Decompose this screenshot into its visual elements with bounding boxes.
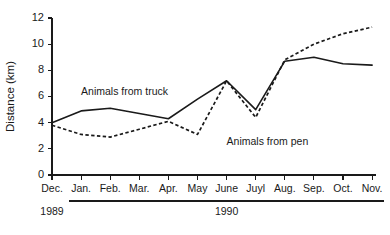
year-label: 1989 <box>40 205 64 217</box>
y-tick-label: 10 <box>32 37 44 49</box>
x-tick-label: Feb. <box>100 182 121 194</box>
y-axis-title: Distance (km) <box>4 61 16 132</box>
series-line-animals-from-pen <box>52 27 372 137</box>
x-tick-label: Nov. <box>362 182 383 194</box>
x-tick-label: Oct. <box>333 182 352 194</box>
year-group-container: 19891990 <box>40 201 384 217</box>
series-annotation-animals-from-pen: Animals from pen <box>227 135 309 147</box>
y-tick-label: 2 <box>38 142 44 154</box>
x-tick-label: Aug. <box>274 182 296 194</box>
x-tick-label: Dec. <box>41 182 63 194</box>
y-tick-label: 0 <box>38 168 44 180</box>
y-tick-label: 4 <box>38 116 44 128</box>
x-tick-label: Jan. <box>71 182 91 194</box>
x-tick-label: May <box>188 182 209 194</box>
series-annotation-animals-from-truck: Animals from truck <box>81 85 169 97</box>
x-tick-label: June <box>215 182 238 194</box>
x-tick-label: Apr. <box>159 182 178 194</box>
x-axis <box>52 175 376 180</box>
x-tick-label-group: Dec.Jan.Feb.Mar.Apr.MayJuneJuylAug.Sep.O… <box>41 182 382 194</box>
year-label: 1990 <box>215 205 239 217</box>
y-tick-label: 6 <box>38 89 44 101</box>
chart-canvas: 024681012 Dec.Jan.Feb.Mar.Apr.MayJuneJuy… <box>0 0 390 235</box>
x-tick-label: Sep. <box>303 182 325 194</box>
x-tick-label: Mar. <box>129 182 149 194</box>
y-tick-label: 12 <box>32 11 44 23</box>
line-chart: 024681012 Dec.Jan.Feb.Mar.Apr.MayJuneJuy… <box>0 0 390 235</box>
y-axis: 024681012 <box>32 11 52 180</box>
x-tick-group <box>52 175 372 180</box>
y-tick-label: 8 <box>38 63 44 75</box>
y-tick-group: 024681012 <box>32 11 52 180</box>
x-tick-label: Juyl <box>246 182 265 194</box>
